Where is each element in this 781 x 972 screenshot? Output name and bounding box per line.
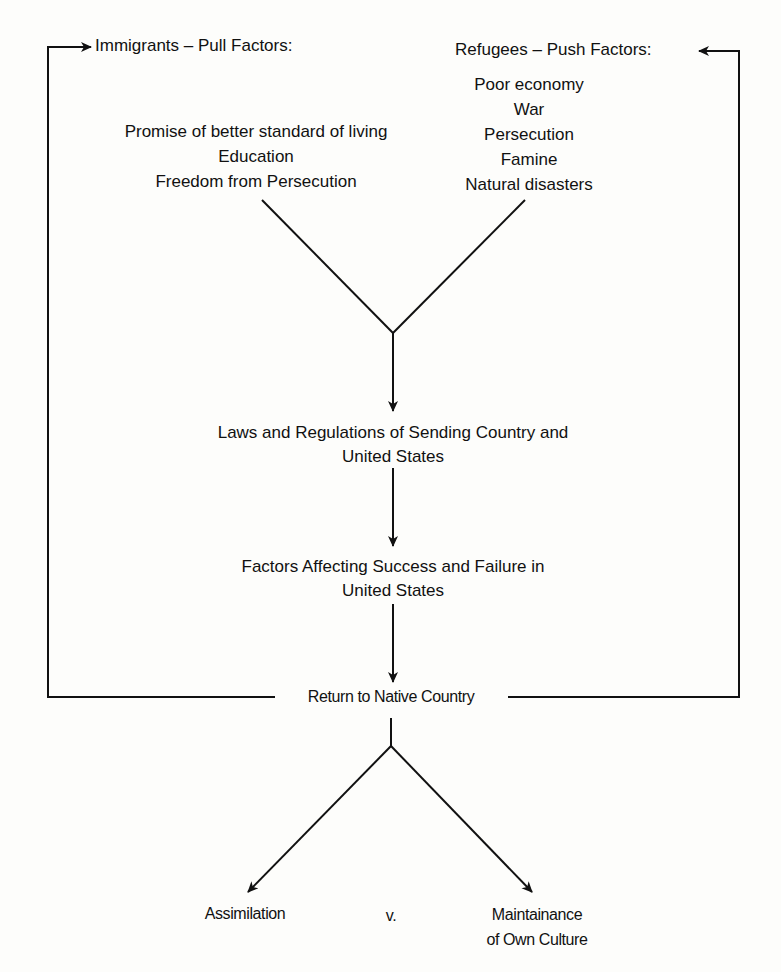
push-factors-header: Refugees – Push Factors:	[455, 40, 652, 60]
arrow-to-assimilation	[248, 746, 391, 892]
return-node: Return to Native Country	[303, 687, 479, 707]
laws-node-line1: Laws and Regulations of Sending Country …	[218, 423, 569, 443]
laws-node-line2: United States	[342, 447, 444, 467]
arrow-to-maintenance	[391, 746, 532, 892]
success-node-line2: United States	[342, 581, 444, 601]
pull-factor-item: Promise of better standard of living	[125, 122, 388, 142]
assimilation-node: Assimilation	[205, 904, 286, 924]
success-node-line1: Factors Affecting Success and Failure in	[241, 557, 544, 577]
diagram-connectors	[0, 0, 781, 972]
maintenance-node-line2: of Own Culture	[486, 930, 587, 950]
push-factor-item: Natural disasters	[465, 175, 593, 195]
pull-factor-item: Education	[218, 147, 294, 167]
push-factor-item: Famine	[501, 150, 558, 170]
pull-merge-line	[262, 200, 393, 333]
push-factor-item: War	[514, 100, 545, 120]
push-factor-item: Poor economy	[474, 75, 584, 95]
push-merge-line	[393, 200, 525, 333]
push-factor-item: Persecution	[484, 125, 574, 145]
feedback-loop-right	[508, 51, 739, 697]
pull-factor-item: Freedom from Persecution	[155, 172, 356, 192]
feedback-loop-left	[48, 47, 275, 697]
pull-factors-header: Immigrants – Pull Factors:	[95, 36, 292, 56]
maintenance-node-line1: Maintainance	[492, 905, 582, 925]
versus-label: v.	[386, 906, 396, 926]
